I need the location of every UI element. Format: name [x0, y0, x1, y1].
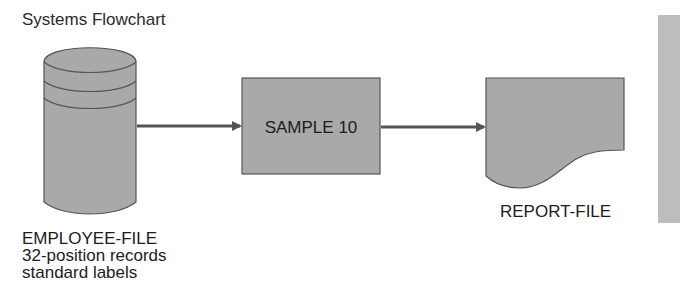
side-bar-decoration [658, 15, 680, 223]
process-label: SAMPLE 10 [265, 118, 358, 137]
report-file-label: REPORT-FILE [500, 202, 611, 222]
disk-storage-icon [44, 48, 136, 214]
employee-file-label: EMPLOYEE-FILE 32-position records standa… [22, 230, 167, 281]
document-output-icon [486, 78, 624, 188]
employee-file-name: EMPLOYEE-FILE [22, 230, 167, 247]
process-box: SAMPLE 10 [242, 78, 380, 174]
employee-file-detail-1: 32-position records [22, 247, 167, 264]
employee-file-detail-2: standard labels [22, 264, 167, 281]
